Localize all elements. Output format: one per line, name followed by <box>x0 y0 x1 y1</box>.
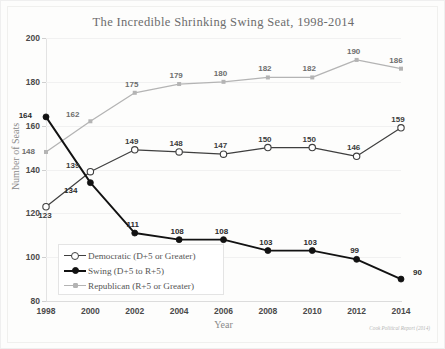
data-point-marker <box>87 180 93 186</box>
data-point-marker <box>222 80 226 84</box>
data-point-marker <box>398 276 404 282</box>
data-point-label: 147 <box>214 141 227 150</box>
data-point-marker <box>177 82 181 86</box>
data-point-label: 149 <box>125 137 138 146</box>
x-axis-tick-label: 2012 <box>334 306 380 316</box>
data-point-marker <box>398 125 404 131</box>
data-point-marker <box>353 153 359 159</box>
data-point-label: 148 <box>22 147 35 156</box>
data-point-marker <box>310 75 314 79</box>
legend-label-democratic: Democratic (D+5 or Greater) <box>88 251 195 261</box>
y-axis-tick-label: 80 <box>0 296 40 306</box>
legend-item-republican[interactable]: Republican (R+5 or Greater) <box>64 278 223 293</box>
data-point-label: 139 <box>66 161 79 170</box>
data-point-label: 103 <box>304 238 317 247</box>
chart-legend: Democratic (D+5 or Greater) Swing (D+5 t… <box>58 244 224 295</box>
data-point-marker <box>354 256 360 262</box>
y-axis-tick-label: 100 <box>0 252 40 262</box>
legend-label-republican: Republican (R+5 or Greater) <box>88 281 194 291</box>
x-axis-tick-label: 2006 <box>201 306 247 316</box>
data-point-label: 159 <box>391 115 404 124</box>
data-point-label: 150 <box>258 135 271 144</box>
legend-label-swing: Swing (D+5 to R+5) <box>88 266 164 276</box>
x-axis-tick-label: 2014 <box>378 306 424 316</box>
data-point-marker <box>399 67 403 71</box>
data-point-marker <box>355 58 359 62</box>
data-point-marker <box>43 114 49 120</box>
data-point-marker <box>176 237 182 243</box>
x-axis-tick-label: 2002 <box>112 306 158 316</box>
data-point-label: 182 <box>258 64 271 73</box>
x-axis-tick-label: 2004 <box>156 306 202 316</box>
data-point-label: 162 <box>66 110 79 119</box>
data-point-marker <box>43 204 49 210</box>
x-axis-tick-label: 2008 <box>245 306 291 316</box>
data-point-marker <box>221 237 227 243</box>
data-point-marker <box>88 119 92 123</box>
data-point-label: 182 <box>303 64 316 73</box>
data-point-label: 108 <box>215 227 228 236</box>
y-axis-tick-label: 200 <box>0 33 40 43</box>
data-point-marker <box>309 144 315 150</box>
y-axis-tick-label: 180 <box>0 77 40 87</box>
data-point-label: 99 <box>350 246 359 255</box>
small-square-marker-icon <box>64 280 86 291</box>
data-point-label: 186 <box>389 56 402 65</box>
data-point-label: 103 <box>259 238 272 247</box>
data-point-label: 190 <box>347 47 360 56</box>
series-line <box>46 128 401 207</box>
filled-circle-marker-icon <box>64 265 86 276</box>
data-point-label: 146 <box>347 143 360 152</box>
x-axis-tick-label: 2010 <box>289 306 335 316</box>
y-axis-tick-mark <box>42 301 46 302</box>
legend-item-swing[interactable]: Swing (D+5 to R+5) <box>64 263 223 278</box>
chart-title: The Incredible Shrinking Swing Seat, 199… <box>1 15 445 30</box>
data-point-label: 148 <box>169 139 182 148</box>
data-point-marker <box>265 248 271 254</box>
data-point-label: 90 <box>413 268 422 277</box>
source-note: Cook Political Report (2014) <box>369 325 430 331</box>
data-point-label: 108 <box>170 227 183 236</box>
x-axis-tick-label: 1998 <box>23 306 69 316</box>
data-point-marker <box>132 230 138 236</box>
data-point-marker <box>133 91 137 95</box>
data-point-label: 111 <box>127 220 139 229</box>
legend-item-democratic[interactable]: Democratic (D+5 or Greater) <box>64 248 223 263</box>
data-point-label: 123 <box>38 211 51 220</box>
data-point-label: 164 <box>19 111 32 120</box>
data-point-marker <box>132 147 138 153</box>
open-circle-marker-icon <box>64 250 86 261</box>
y-axis-label: Number of Seats <box>10 97 21 217</box>
data-point-marker <box>44 150 48 154</box>
data-point-marker <box>176 149 182 155</box>
data-point-label: 134 <box>64 186 77 195</box>
data-point-label: 150 <box>303 135 316 144</box>
data-point-label: 180 <box>214 69 227 78</box>
data-point-marker <box>220 151 226 157</box>
data-point-marker <box>87 168 93 174</box>
x-axis-line <box>46 301 402 302</box>
data-point-marker <box>266 75 270 79</box>
data-point-marker <box>265 144 271 150</box>
data-point-label: 175 <box>125 80 138 89</box>
data-point-label: 179 <box>169 71 182 80</box>
x-axis-tick-label: 2000 <box>67 306 113 316</box>
chart-figure: The Incredible Shrinking Swing Seat, 199… <box>0 0 445 349</box>
data-point-marker <box>309 248 315 254</box>
